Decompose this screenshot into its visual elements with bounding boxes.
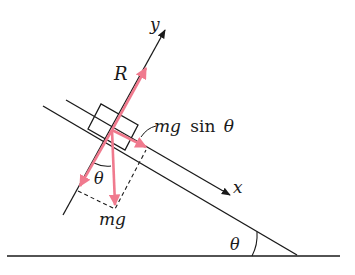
y-axis-label: y (149, 14, 160, 34)
parallel-component-arrow (112, 130, 146, 147)
x-axis-label: x (233, 177, 243, 197)
component-label: mg sin θ (154, 116, 234, 136)
component-label-theta: θ (224, 116, 234, 136)
incline-angle-arc (252, 232, 257, 256)
inner-angle-label: θ (94, 169, 104, 188)
x-axis (66, 100, 230, 195)
weight-label: mg (99, 209, 126, 229)
inner-angle-arc (94, 163, 111, 166)
reaction-label: R (113, 63, 128, 84)
incline-diagram: y x R mg sin θ mg θ θ (0, 0, 355, 275)
component-label-sin: sin (190, 116, 215, 136)
incline-angle-label: θ (230, 235, 240, 254)
component-label-mg: mg (154, 116, 181, 136)
weight-arrow (112, 130, 115, 205)
